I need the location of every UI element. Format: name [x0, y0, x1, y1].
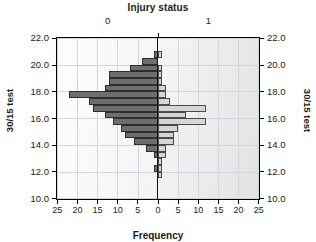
y-tick-label-right: 18.0: [267, 86, 301, 98]
x-tickmark: [218, 200, 219, 204]
x-tickmark: [137, 200, 138, 204]
histogram-bar: [158, 98, 170, 105]
y-axis-label-left: 30/15 test: [4, 80, 15, 142]
histogram-bar: [121, 125, 157, 132]
group-label-1: 1: [193, 15, 223, 26]
y-tickmark: [260, 118, 264, 119]
y-tick-label-left: 14.0: [15, 139, 49, 151]
histogram-bar: [158, 85, 166, 92]
y-tickmark: [260, 91, 264, 92]
histogram-bar: [158, 125, 178, 132]
x-tickmark: [178, 200, 179, 204]
histogram-bar: [93, 105, 157, 112]
histogram-bar: [158, 91, 166, 98]
y-tick-label-left: 10.0: [15, 193, 49, 205]
x-tickmark: [198, 200, 199, 204]
y-tickmark: [260, 65, 264, 66]
histogram-bar: [130, 65, 158, 72]
y-tick-label-right: 16.0: [267, 113, 301, 125]
histogram-bar: [158, 112, 186, 119]
y-tickmark: [260, 171, 264, 172]
x-tickmark: [238, 200, 239, 204]
chart-root: Injury status 0 1 30/15 test 30/15 test …: [0, 0, 316, 242]
y-tick-label-right: 10.0: [267, 193, 301, 205]
y-tickmark: [260, 198, 264, 199]
y-tick-label-right: 12.0: [267, 166, 301, 178]
y-tickmark: [52, 145, 56, 146]
histogram-bar: [89, 98, 157, 105]
x-tickmark: [57, 200, 58, 204]
histogram-bar: [158, 118, 206, 125]
histogram-bar: [125, 132, 157, 139]
histogram-bar: [109, 78, 157, 85]
histogram-bar: [142, 58, 158, 65]
y-tickmark: [52, 65, 56, 66]
histogram-bar: [146, 145, 158, 152]
histogram-bar: [158, 105, 206, 112]
y-axis-label-right: 30/15 test: [302, 80, 313, 142]
y-tick-label-right: 14.0: [267, 139, 301, 151]
histogram-bar: [113, 118, 157, 125]
y-tickmark: [52, 91, 56, 92]
plot-area: [56, 37, 260, 200]
histogram-bar: [134, 138, 158, 145]
y-tick-label-right: 20.0: [267, 59, 301, 71]
histogram-bar: [105, 112, 157, 119]
y-tickmark: [52, 118, 56, 119]
y-tickmark: [52, 38, 56, 39]
histogram-bar: [158, 138, 174, 145]
y-tickmark: [260, 38, 264, 39]
histogram-bar: [158, 145, 166, 152]
histogram-bar: [105, 85, 157, 92]
y-tick-label-left: 12.0: [15, 166, 49, 178]
histogram-bar: [158, 152, 166, 159]
x-tickmark: [117, 200, 118, 204]
top-tickmark: [158, 33, 159, 37]
histogram-bar: [158, 132, 174, 139]
histogram-bar: [69, 91, 158, 98]
x-axis-label: Frequency: [0, 230, 316, 241]
group-label-0: 0: [93, 15, 123, 26]
y-tickmark: [260, 145, 264, 146]
x-tickmark: [158, 200, 159, 204]
y-tickmark: [52, 198, 56, 199]
y-tick-label-left: 16.0: [15, 113, 49, 125]
histogram-bar: [109, 71, 157, 78]
zero-axis-line: [157, 38, 158, 199]
y-tick-label-left: 20.0: [15, 59, 49, 71]
x-tick-label: 25: [247, 205, 271, 215]
y-tickmark: [52, 171, 56, 172]
y-tick-label-left: 22.0: [15, 32, 49, 44]
y-tick-label-right: 22.0: [267, 32, 301, 44]
chart-title: Injury status: [0, 2, 316, 13]
x-tickmark: [97, 200, 98, 204]
x-tickmark: [258, 200, 259, 204]
y-tick-label-left: 18.0: [15, 86, 49, 98]
x-tickmark: [77, 200, 78, 204]
